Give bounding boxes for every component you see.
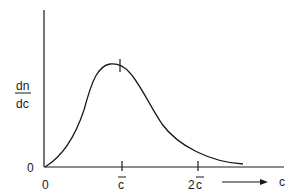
two-cbar-c: c [196,178,202,192]
x-zero-label: 0 [42,178,49,192]
x-axis-label: c [279,175,285,189]
ylabel-dn: dn [16,79,29,93]
ylabel-dc: dc [16,97,29,111]
distribution-diagram: dn dc 0 0 c 2 c c [0,0,298,196]
distribution-curve [45,64,243,167]
arrowhead-icon [260,179,268,185]
cbar-label: c [118,178,124,192]
two-cbar-coef: 2 [188,178,195,192]
y-zero-label: 0 [27,161,34,175]
